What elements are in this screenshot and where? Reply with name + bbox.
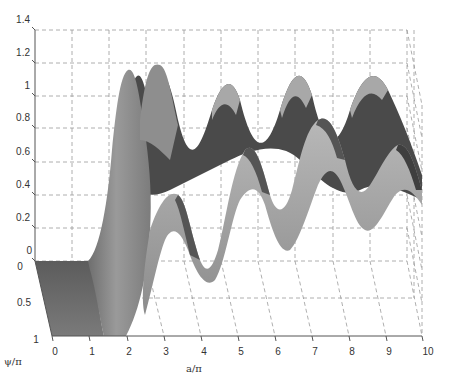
x-tick: 3 [163,346,169,357]
x-axis-ticks: 0 1 2 3 4 5 6 7 8 9 10 [52,346,434,357]
x-tick: 8 [349,346,355,357]
x-tick: 10 [422,346,434,357]
x-tick: 6 [275,346,281,357]
x-axis-label: a/π [186,363,202,374]
z-tick: 0.4 [16,179,30,190]
z-tick: 1.4 [16,14,30,25]
z-axis-ticks: 1.4 1.2 1 0.8 0.6 0.4 0.2 0 [16,14,32,256]
surface-plot: 1.4 1.2 1 0.8 0.6 0.4 0.2 0 0 0.5 1 0 1 … [0,0,449,388]
x-tick: 0 [52,346,58,357]
y-tick: 1 [33,334,39,345]
z-tick: 0.8 [16,112,30,123]
x-tick: 1 [89,346,95,357]
x-tick: 9 [386,346,392,357]
y-axis-ticks: 0 0.5 1 [17,261,39,345]
x-tick: 4 [201,346,207,357]
y-tick: 0 [17,261,23,272]
x-tick: 7 [312,346,318,357]
y-tick: 0.5 [17,297,31,308]
z-tick: 1 [24,80,30,91]
z-tick: 1.2 [16,47,30,58]
z-tick: 0 [26,245,32,256]
x-tick: 5 [238,346,244,357]
z-tick: 0.2 [16,212,30,223]
y-axis-label: ψ/π [4,356,22,367]
z-tick: 0.6 [16,146,30,157]
x-tick: 2 [126,346,132,357]
